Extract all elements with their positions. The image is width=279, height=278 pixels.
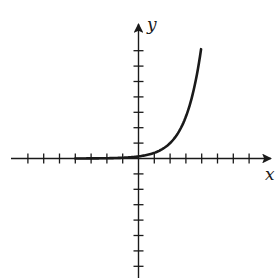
y-axis-label: y [146, 14, 157, 34]
y-axis [134, 24, 144, 278]
x-axis-label: x [265, 164, 275, 184]
exponential-graph: y x [0, 0, 279, 278]
